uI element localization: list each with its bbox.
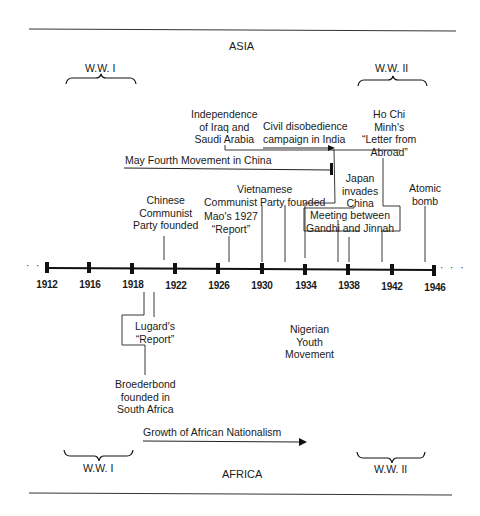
event-vietnamese-communist-party: Vietnamese Communist Party founded [204, 183, 325, 208]
event-chinese-communist-party: Chinese Communist Party founded [133, 194, 198, 232]
event-lugard-report: Lugard's “Report” [135, 320, 175, 345]
year-label-1938: 1938 [338, 280, 359, 291]
axis-continuation-right: · · · [440, 262, 466, 273]
event-african-nationalism: Growth of African Nationalism [143, 426, 281, 439]
ww2-top-label: W.W. II [375, 62, 408, 75]
ww2-bottom-label: W.W. II [374, 463, 407, 476]
asia-region-label: ASIA [229, 40, 254, 53]
event-nigerian-youth-movement: Nigerian Youth Movement [285, 323, 334, 361]
ww1-top-label: W.W. I [85, 62, 115, 75]
year-label-1916: 1916 [79, 279, 100, 290]
year-label-1918: 1918 [122, 279, 143, 290]
event-mao-report: Mao's 1927 “Report” [204, 210, 258, 235]
year-label-1946: 1946 [424, 282, 445, 293]
timeline-lines [0, 0, 480, 516]
year-label-1912: 1912 [36, 279, 57, 290]
timeline-diagram: ASIA AFRICA W.W. I W.W. II W.W. I W.W. I… [0, 0, 480, 516]
event-broederbond-founded: Broederbond founded in South Africa [115, 378, 176, 416]
africa-region-label: AFRICA [222, 468, 262, 481]
event-civil-disobedience: Civil disobedience campaign in India [263, 120, 348, 145]
year-label-1922: 1922 [165, 280, 186, 291]
year-label-1934: 1934 [295, 280, 316, 291]
event-atomic-bomb: Atomic bomb [409, 182, 441, 207]
ww1-bottom-label: W.W. I [83, 462, 113, 475]
event-may-fourth-movement: May Fourth Movement in China [125, 154, 271, 167]
event-gandhi-jinnah-meeting: Meeting between Gandhi and Jinnah [306, 209, 394, 234]
year-label-1930: 1930 [251, 280, 272, 291]
year-label-1926: 1926 [208, 280, 229, 291]
axis-continuation-left: · · · [26, 260, 52, 271]
event-japan-invades-china: Japan invades China [342, 172, 378, 210]
year-label-1942: 1942 [381, 281, 402, 292]
event-iraq-saudi-independence: Independence of Iraq and Saudi Arabia [191, 108, 258, 146]
event-ho-chi-minh-letter: Ho Chi Minh's “Letter from Abroad” [362, 108, 416, 158]
